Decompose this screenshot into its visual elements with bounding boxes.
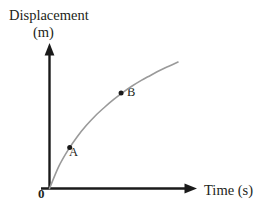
y-axis-arrow-icon [45,43,55,56]
y-axis-line-group [45,43,55,189]
displacement-time-graph-figure: Displacement (m) Time (s) 0 A B [0,0,263,211]
plot-area [0,0,263,211]
data-point-b-marker [119,91,124,96]
data-point-a-marker [67,145,72,150]
displacement-time-curve [50,62,179,189]
x-axis-arrow-icon [185,183,198,193]
x-axis-line-group [41,183,197,193]
